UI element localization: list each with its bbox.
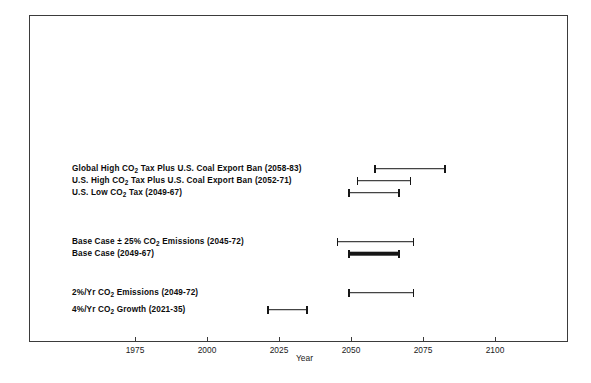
interval-bar-us-high-co2-tax-coal-export-ban	[357, 175, 412, 186]
interval-bar-base-case-plus-minus-25pct	[337, 236, 415, 247]
interval-bar-line	[348, 192, 400, 194]
row-label-global-high-co2-tax-coal-export-ban: Global High CO2 Tax Plus U.S. Coal Expor…	[72, 164, 302, 174]
x-axis-title: Year	[0, 353, 591, 363]
row-label-4pct-yr-co2-growth: 4%/Yr CO2 Growth (2021-35)	[72, 305, 186, 315]
interval-bar-line	[337, 241, 415, 243]
subscript: 2	[156, 240, 160, 247]
interval-bar-cap-left	[348, 189, 350, 197]
interval-bar-cap-left	[357, 177, 359, 185]
interval-bar-line	[348, 292, 414, 294]
interval-bar-cap-right	[398, 250, 400, 258]
interval-bar-2pct-yr-co2-emissions	[348, 287, 414, 298]
subscript: 2	[111, 308, 115, 315]
interval-bar-line	[267, 309, 307, 311]
interval-bar-cap-left	[348, 250, 350, 258]
interval-bar-cap-left	[374, 165, 376, 173]
x-axis-tick-2050	[351, 337, 352, 342]
subscript: 2	[111, 291, 115, 298]
x-axis-title-label: Year	[296, 353, 313, 363]
row-label-us-high-co2-tax-coal-export-ban: U.S. High CO2 Tax Plus U.S. Coal Export …	[72, 176, 292, 186]
interval-bar-global-high-co2-tax-coal-export-ban	[374, 163, 446, 174]
x-axis-tick-2100	[495, 337, 496, 342]
subscript: 2	[123, 191, 127, 198]
x-axis-tick-1975	[135, 337, 136, 342]
interval-bar-cap-left	[348, 289, 350, 297]
interval-bar-cap-right	[444, 165, 446, 173]
range-interval-chart: Global High CO2 Tax Plus U.S. Coal Expor…	[0, 0, 591, 383]
x-axis-tick-2025	[279, 337, 280, 342]
interval-bar-4pct-yr-co2-growth	[267, 304, 307, 315]
interval-bar-cap-left	[267, 306, 269, 314]
row-label-us-low-co2-tax: U.S. Low CO2 Tax (2049-67)	[72, 188, 182, 198]
interval-bar-line	[374, 168, 446, 170]
row-label-base-case-plus-minus-25pct: Base Case ± 25% CO2 Emissions (2045-72)	[72, 237, 244, 247]
interval-bar-cap-right	[413, 289, 415, 297]
interval-bar-cap-right	[410, 177, 412, 185]
interval-bar-cap-right	[398, 189, 400, 197]
interval-bar-cap-left	[337, 238, 339, 246]
x-axis-tick-2075	[423, 337, 424, 342]
interval-bar-cap-right	[306, 306, 308, 314]
interval-bar-cap-right	[413, 238, 415, 246]
interval-bar-us-low-co2-tax	[348, 187, 400, 198]
row-label-2pct-yr-co2-emissions: 2%/Yr CO2 Emissions (2049-72)	[72, 288, 198, 298]
interval-bar-line	[357, 180, 412, 182]
subscript: 2	[135, 167, 139, 174]
interval-bar-line	[348, 251, 400, 256]
subscript: 2	[125, 179, 129, 186]
row-label-base-case: Base Case (2049-67)	[72, 249, 154, 259]
interval-bar-base-case	[348, 248, 400, 259]
x-axis-tick-2000	[207, 337, 208, 342]
